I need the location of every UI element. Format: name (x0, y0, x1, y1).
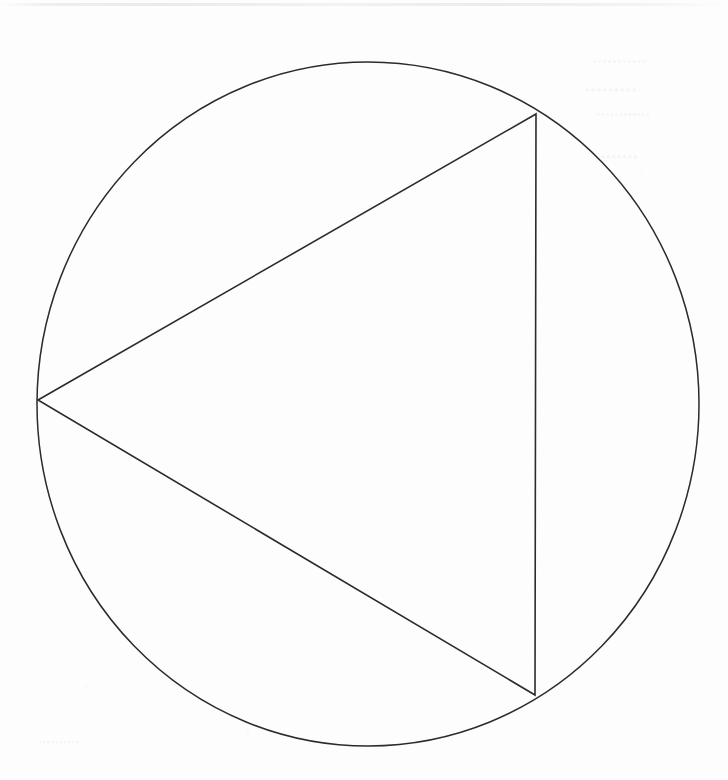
circumscribed-circle (37, 62, 699, 746)
figure-group (37, 62, 699, 746)
inscribed-equilateral-triangle (38, 114, 536, 695)
scanned-page: ••••••••••• ••••••••• •••••••••••• •••••… (0, 0, 728, 780)
geometry-figure (0, 0, 728, 780)
